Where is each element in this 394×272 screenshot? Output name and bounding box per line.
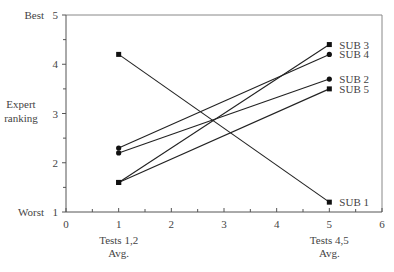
x-tick-label: 1 — [116, 218, 122, 230]
series-label: SUB 5 — [339, 83, 369, 95]
square-marker-icon — [116, 52, 121, 57]
y-tick-label: 5 — [53, 9, 59, 21]
circle-marker-icon — [116, 150, 121, 155]
y-annotation-worst: Worst — [18, 206, 44, 218]
series-sub-1: SUB 1 — [116, 52, 369, 208]
x-tick-label: 0 — [63, 218, 69, 230]
x-tick-label: 4 — [274, 218, 280, 230]
y-axis-title: Expert — [6, 98, 35, 110]
x-category-label: Tests 1,2 — [99, 234, 138, 246]
circle-marker-icon — [327, 76, 332, 81]
x-tick-label: 5 — [327, 218, 333, 230]
series-line — [119, 79, 330, 153]
axis-annotations: BestWorstExpertranking — [4, 9, 44, 218]
square-marker-icon — [116, 180, 121, 185]
y-tick-label: 3 — [53, 108, 59, 120]
y-axis: 12345 — [53, 9, 67, 218]
y-tick-label: 1 — [53, 206, 59, 218]
x-axis: 0123456Tests 1,2Avg.Tests 4,5Avg. — [63, 208, 385, 259]
series-label: SUB 4 — [339, 48, 369, 60]
y-tick-label: 4 — [53, 58, 59, 70]
square-marker-icon — [327, 42, 332, 47]
line-chart: 0123456Tests 1,2Avg.Tests 4,5Avg. 12345 … — [0, 0, 394, 272]
x-category-label: Avg. — [108, 247, 129, 259]
series-sub-5: SUB 5 — [116, 83, 369, 185]
circle-marker-icon — [327, 52, 332, 57]
x-category-label: Tests 4,5 — [310, 234, 349, 246]
y-tick-label: 2 — [53, 157, 59, 169]
x-tick-label: 3 — [221, 218, 227, 230]
x-category-label: Avg. — [319, 247, 340, 259]
series-sub-4: SUB 4 — [116, 48, 369, 150]
series-label: SUB 1 — [339, 196, 369, 208]
x-tick-label: 6 — [379, 218, 385, 230]
series-line — [119, 89, 330, 183]
circle-marker-icon — [116, 145, 121, 150]
series-line — [119, 54, 330, 148]
series-line — [119, 45, 330, 183]
series-sub-2: SUB 2 — [116, 73, 369, 155]
data-series: SUB 1SUB 2SUB 3SUB 4SUB 5 — [116, 39, 369, 209]
series-sub-3: SUB 3 — [116, 39, 369, 185]
square-marker-icon — [327, 200, 332, 205]
y-annotation-best: Best — [24, 9, 44, 21]
square-marker-icon — [327, 86, 332, 91]
y-axis-title: ranking — [4, 112, 38, 124]
series-line — [119, 54, 330, 202]
x-tick-label: 2 — [169, 218, 175, 230]
